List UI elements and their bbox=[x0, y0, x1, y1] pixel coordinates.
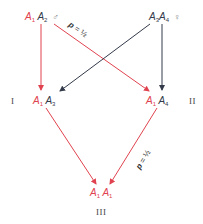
edge-child-two-to-grandchild bbox=[110, 108, 157, 184]
label-individual-one: I bbox=[11, 96, 15, 106]
label-individual-two: II bbox=[189, 96, 196, 106]
allele-a1: A1 bbox=[33, 95, 43, 106]
allele-a2: A2 bbox=[37, 11, 47, 22]
allele-a3: A3 bbox=[45, 95, 55, 106]
node-parent-female: A3A4 ♀ bbox=[149, 12, 181, 25]
edge-male-to-child-two bbox=[54, 24, 149, 91]
allele-a1-second: A1 bbox=[102, 187, 112, 198]
allele-a3: A3 bbox=[149, 11, 159, 22]
label-individual-three: III bbox=[96, 207, 107, 217]
node-child-one: A1 A3 bbox=[33, 96, 55, 109]
allele-a4: A4 bbox=[158, 95, 168, 106]
allele-a1: A1 bbox=[25, 11, 35, 22]
edge-female-to-child-one bbox=[60, 24, 150, 91]
female-symbol-icon: ♀ bbox=[174, 12, 181, 22]
allele-a4: A4 bbox=[159, 11, 169, 22]
node-child-two: A1 A4 bbox=[146, 96, 168, 109]
allele-a1: A1 bbox=[146, 95, 156, 106]
node-grandchild: A1 A1 bbox=[90, 188, 112, 201]
node-parent-male: A1 A2 ♂ bbox=[25, 12, 59, 25]
male-symbol-icon: ♂ bbox=[52, 12, 59, 22]
genetic-cross-diagram: A1 A2 ♂ A3A4 ♀ A1 A3 I A1 A4 II A1 A1 II… bbox=[0, 0, 203, 224]
allele-a1-first: A1 bbox=[90, 187, 100, 198]
edge-child-one-to-grandchild bbox=[46, 108, 96, 184]
